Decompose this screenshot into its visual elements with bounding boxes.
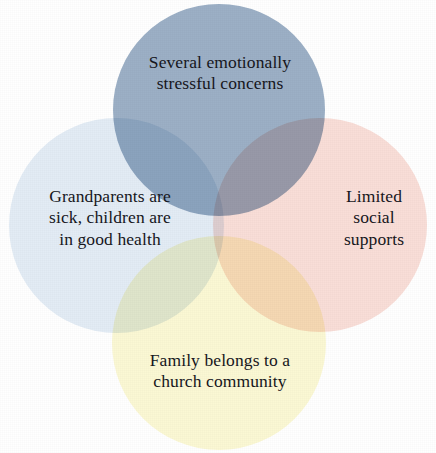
venn-label-top: Several emotionally stressful concerns <box>115 52 325 95</box>
venn-label-left: Grandparents are sick, children are in g… <box>12 186 208 250</box>
venn-label-top-line-2: stressful concerns <box>115 73 325 94</box>
venn-label-bottom-line-2: church community <box>118 371 322 392</box>
venn-label-bottom: Family belongs to a church community <box>118 350 322 393</box>
venn-label-left-line-3: in good health <box>12 229 208 250</box>
venn-label-top-line-1: Several emotionally <box>115 52 325 73</box>
venn-label-bottom-line-1: Family belongs to a <box>118 350 322 371</box>
venn-label-right-line-1: Limited <box>318 186 430 207</box>
venn-diagram: Several emotionally stressful concerns G… <box>0 0 436 453</box>
venn-label-left-line-1: Grandparents are <box>12 186 208 207</box>
venn-label-right-line-2: social <box>318 207 430 228</box>
venn-label-right: Limited social supports <box>318 186 430 250</box>
venn-label-left-line-2: sick, children are <box>12 207 208 228</box>
venn-circle-bottom <box>112 236 326 450</box>
venn-label-right-line-3: supports <box>318 229 430 250</box>
